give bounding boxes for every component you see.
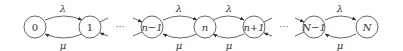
ellipsis-1: ··· bbox=[115, 21, 125, 32]
node-N: N bbox=[356, 16, 378, 38]
mu-label: μ bbox=[337, 40, 344, 51]
lambda-label: λ bbox=[59, 3, 66, 14]
lambda-label: λ bbox=[225, 3, 232, 14]
node-0: 0 bbox=[24, 16, 46, 38]
birth-death-diagram: λ μ ··· λ μ λ μ ··· λ μ 0 1 bbox=[0, 0, 403, 51]
lambda-label: λ bbox=[336, 3, 343, 14]
forward-arrow bbox=[45, 16, 82, 20]
edge-0-1: λ μ bbox=[45, 3, 82, 51]
edge-N-1-N: λ μ bbox=[325, 3, 356, 51]
node-label: n bbox=[202, 22, 208, 33]
forward-arrow bbox=[163, 16, 197, 20]
node-label: N bbox=[362, 22, 373, 33]
node-N-minus-1: N−1 bbox=[301, 16, 326, 38]
mu-label: μ bbox=[226, 40, 233, 51]
node-label: N−1 bbox=[301, 22, 326, 33]
backward-arrow bbox=[163, 34, 197, 38]
node-label: 1 bbox=[87, 22, 93, 33]
stub-out bbox=[264, 18, 272, 22]
edge-n-1-n: λ μ bbox=[163, 3, 197, 51]
ellipsis-2: ··· bbox=[279, 21, 289, 32]
node-label: n+1 bbox=[243, 22, 264, 33]
lambda-label: λ bbox=[175, 3, 182, 14]
stub-out bbox=[100, 18, 108, 22]
forward-arrow bbox=[213, 16, 244, 20]
mu-label: μ bbox=[60, 40, 67, 51]
node-label: n−1 bbox=[141, 22, 162, 33]
mu-label: μ bbox=[176, 40, 183, 51]
stub-in bbox=[100, 33, 108, 36]
backward-arrow bbox=[45, 34, 82, 38]
node-n-plus-1: n+1 bbox=[243, 16, 265, 38]
stub-in bbox=[264, 33, 272, 36]
forward-arrow bbox=[325, 16, 356, 20]
edge-n-n+1: λ μ bbox=[213, 3, 244, 51]
node-1: 1 bbox=[79, 16, 101, 38]
node-n-minus-1: n−1 bbox=[141, 16, 163, 38]
node-n: n bbox=[194, 16, 216, 38]
backward-arrow bbox=[325, 34, 356, 38]
node-label: 0 bbox=[32, 22, 38, 33]
backward-arrow bbox=[213, 34, 244, 38]
